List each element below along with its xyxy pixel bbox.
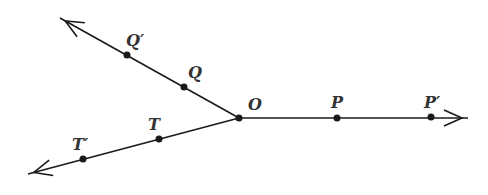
label-O: O [248,95,262,114]
point-P′ [428,114,435,121]
label-P′: P′ [423,93,441,112]
point-T′ [80,156,87,163]
point-O [236,115,243,122]
label-Q: Q [188,63,202,82]
ray-OT [28,118,239,174]
point-Q [181,84,188,91]
label-T′: T′ [72,135,89,154]
ray-diagram: OPP′QQ′TT′ [0,0,488,195]
label-Q′: Q′ [126,31,145,50]
point-Q′ [124,52,131,59]
ray-OQ [60,18,239,118]
labels-group: OPP′QQ′TT′ [72,31,441,154]
point-T [156,136,163,143]
label-T: T [148,115,161,134]
point-P [334,115,341,122]
diagram-svg: OPP′QQ′TT′ [0,0,488,195]
label-P: P [330,93,344,112]
